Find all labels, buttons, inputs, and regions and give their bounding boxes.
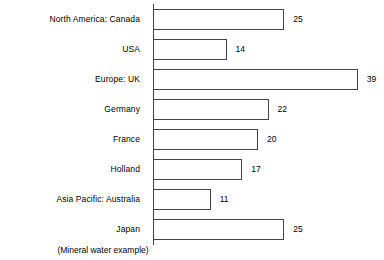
bar-row: 25 xyxy=(153,214,384,244)
category-label: Germany xyxy=(104,104,140,114)
category-label-row: North America: Canada xyxy=(0,4,140,34)
bar xyxy=(153,129,258,150)
category-label: France xyxy=(113,134,140,144)
category-label-row: Europe: UK xyxy=(0,64,140,94)
bar-row: 20 xyxy=(153,124,384,154)
bar xyxy=(153,219,284,240)
bar-value-label: 17 xyxy=(251,164,260,174)
bar-row: 25 xyxy=(153,4,384,34)
bar-row: 17 xyxy=(153,154,384,184)
category-axis-labels: North America: Canada USA Europe: UK Ger… xyxy=(0,4,140,244)
category-label-row: Japan xyxy=(0,214,140,244)
bar-value-label: 22 xyxy=(278,104,287,114)
plot-area: 25 14 39 22 20 17 11 25 xyxy=(153,4,384,245)
bar-row: 11 xyxy=(153,184,384,214)
bar-value-label: 20 xyxy=(267,134,276,144)
bar xyxy=(153,9,284,30)
chart-subtitle: (Mineral water example) xyxy=(0,245,206,255)
bar-value-label: 11 xyxy=(220,194,229,204)
category-label: Holland xyxy=(110,164,140,174)
bar-row: 39 xyxy=(153,64,384,94)
bar-value-label: 14 xyxy=(236,44,245,54)
category-label-row: France xyxy=(0,124,140,154)
bar-value-label: 25 xyxy=(293,224,302,234)
bar-chart-figure: North America: Canada USA Europe: UK Ger… xyxy=(0,0,384,260)
bar xyxy=(153,159,242,180)
bar-value-label: 39 xyxy=(367,74,376,84)
bar-row: 14 xyxy=(153,34,384,64)
category-label: North America: Canada xyxy=(50,14,140,24)
bar xyxy=(153,99,269,120)
category-label: USA xyxy=(122,44,140,54)
category-label-row: USA xyxy=(0,34,140,64)
category-label: Europe: UK xyxy=(95,74,140,84)
category-label: Japan xyxy=(116,224,140,234)
bar xyxy=(153,69,358,90)
bar-row: 22 xyxy=(153,94,384,124)
category-label-row: Germany xyxy=(0,94,140,124)
category-label: Asia Pacific: Australia xyxy=(56,194,140,204)
category-label-row: Holland xyxy=(0,154,140,184)
category-label-row: Asia Pacific: Australia xyxy=(0,184,140,214)
bar-value-label: 25 xyxy=(293,14,302,24)
bar xyxy=(153,39,227,60)
bar xyxy=(153,189,211,210)
